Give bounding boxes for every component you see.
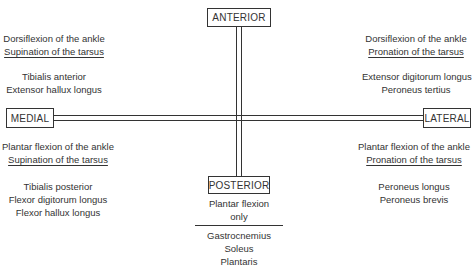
muscle-name: Plantaris xyxy=(184,255,294,268)
anterior-label-box: ANTERIOR xyxy=(207,8,271,27)
medial-label: MEDIAL xyxy=(11,113,49,124)
muscle-name: Gastrocnemius xyxy=(184,229,294,242)
posterior-medial-muscles: Tibialis posterior Flexor digitorum long… xyxy=(0,180,116,219)
muscle-name: Flexor digitorum longus xyxy=(0,193,116,206)
posterior-medial-actions: Plantar flexion of the ankle Supination … xyxy=(0,140,116,166)
action-text: Plantar flexion xyxy=(184,197,294,210)
medial-lateral-axis-line xyxy=(53,115,424,121)
lateral-label-box: LATERAL xyxy=(423,108,471,128)
posterior-label: POSTERIOR xyxy=(209,180,270,191)
muscle-name: Extensor digitorum longus xyxy=(362,70,470,83)
muscle-name: Peroneus tertius xyxy=(362,83,470,96)
medial-label-box: MEDIAL xyxy=(6,108,54,128)
anterior-medial-actions: Dorsiflexion of the ankle Supination of … xyxy=(0,32,108,58)
muscle-name: Soleus xyxy=(184,242,294,255)
muscle-name: Flexor hallux longus xyxy=(0,206,116,219)
anterior-posterior-axis-line xyxy=(236,26,242,177)
muscle-name: Tibialis anterior xyxy=(0,70,108,83)
anterior-lateral-muscles: Extensor digitorum longus Peroneus terti… xyxy=(362,70,470,96)
divider-line xyxy=(195,225,283,226)
action-text: Dorsiflexion of the ankle xyxy=(362,32,470,45)
action-text: Pronation of the tarsus xyxy=(356,153,472,166)
action-text: Pronation of the tarsus xyxy=(362,45,470,58)
anterior-medial-muscles: Tibialis anterior Extensor hallux longus xyxy=(0,70,108,96)
posterior-center-group: Plantar flexion only Gastrocnemius Soleu… xyxy=(184,197,294,268)
action-text: Supination of the tarsus xyxy=(0,153,116,166)
lateral-label: LATERAL xyxy=(424,113,469,124)
action-text: Supination of the tarsus xyxy=(0,45,108,58)
muscle-name: Tibialis posterior xyxy=(0,180,116,193)
posterior-label-box: POSTERIOR xyxy=(208,176,270,194)
action-text: only xyxy=(184,210,294,223)
action-text: Plantar flexion of the ankle xyxy=(356,140,472,153)
anterior-label: ANTERIOR xyxy=(212,12,265,23)
action-text: Dorsiflexion of the ankle xyxy=(0,32,108,45)
posterior-lateral-muscles: Peroneus longus Peroneus brevis xyxy=(356,180,472,206)
muscle-name: Peroneus longus xyxy=(356,180,472,193)
action-text: Plantar flexion of the ankle xyxy=(0,140,116,153)
muscle-name: Extensor hallux longus xyxy=(0,83,108,96)
anterior-lateral-actions: Dorsiflexion of the ankle Pronation of t… xyxy=(362,32,470,58)
muscle-name: Peroneus brevis xyxy=(356,193,472,206)
posterior-lateral-actions: Plantar flexion of the ankle Pronation o… xyxy=(356,140,472,166)
